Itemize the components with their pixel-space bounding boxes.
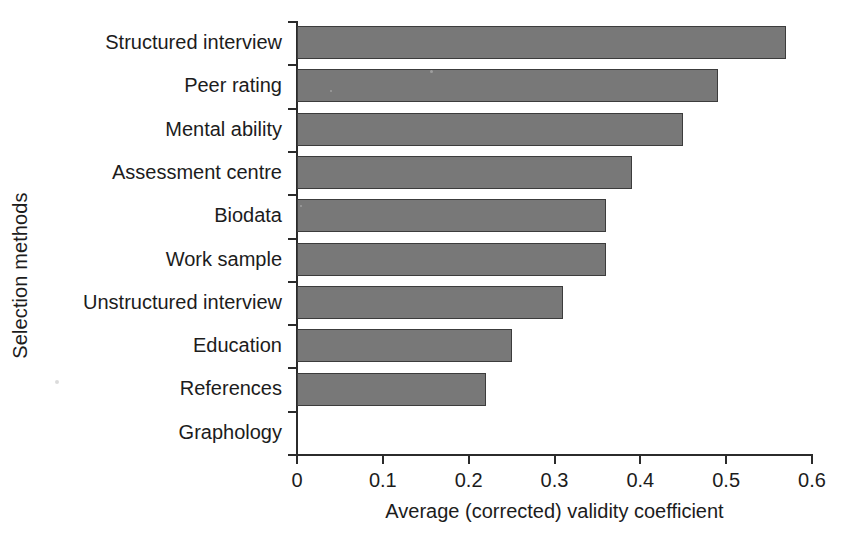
y-axis-tick — [288, 151, 298, 153]
x-axis-tick-label: 0.6 — [798, 469, 826, 492]
x-axis-tick — [382, 454, 384, 464]
category-label: Biodata — [214, 194, 282, 237]
category-label-list: Structured interviewPeer ratingMental ab… — [40, 21, 290, 454]
scan-speck — [300, 205, 302, 207]
bar — [297, 243, 606, 276]
category-label: Peer rating — [184, 64, 282, 107]
category-label: Education — [193, 324, 282, 367]
bar — [297, 113, 683, 146]
x-axis-tick-label: 0.4 — [626, 469, 654, 492]
bar — [297, 286, 563, 319]
x-axis-tick — [296, 454, 298, 464]
y-axis-tick — [288, 411, 298, 413]
category-label: Assessment centre — [112, 151, 282, 194]
y-axis-tick — [288, 108, 298, 110]
y-axis-tick — [288, 367, 298, 369]
scan-speck — [55, 380, 59, 384]
x-axis-tick-label: 0.2 — [455, 469, 483, 492]
bar — [297, 373, 486, 406]
x-axis-tick-label: 0.1 — [369, 469, 397, 492]
y-axis-tick — [288, 64, 298, 66]
y-axis-tick — [288, 238, 298, 240]
bar-chart-figure: Selection methods Structured interviewPe… — [0, 0, 850, 551]
plot-area: 00.10.20.30.40.50.6 — [297, 21, 812, 454]
x-axis-tick — [468, 454, 470, 464]
bar — [297, 26, 786, 59]
category-label: Mental ability — [165, 108, 282, 151]
scan-speck — [430, 70, 433, 73]
x-axis-title: Average (corrected) validity coefficient — [297, 500, 812, 523]
y-axis-tick — [288, 21, 298, 23]
y-axis-tick — [288, 281, 298, 283]
bar — [297, 199, 606, 232]
x-axis-tick — [639, 454, 641, 464]
bar — [297, 156, 632, 189]
x-axis-tick — [725, 454, 727, 464]
category-label: Structured interview — [105, 21, 282, 64]
x-axis-tick-label: 0 — [291, 469, 302, 492]
x-axis-tick-label: 0.3 — [541, 469, 569, 492]
category-label: Unstructured interview — [83, 281, 282, 324]
scan-speck — [330, 90, 332, 92]
x-axis-tick — [554, 454, 556, 464]
category-label: Work sample — [166, 238, 282, 281]
bar — [297, 329, 512, 362]
x-axis-tick — [811, 454, 813, 464]
category-label: References — [180, 367, 282, 410]
category-label: Graphology — [179, 411, 282, 454]
y-axis-tick — [288, 194, 298, 196]
y-axis-title: Selection methods — [0, 0, 40, 551]
bar — [297, 69, 718, 102]
x-axis-tick-label: 0.5 — [712, 469, 740, 492]
y-axis-tick — [288, 324, 298, 326]
